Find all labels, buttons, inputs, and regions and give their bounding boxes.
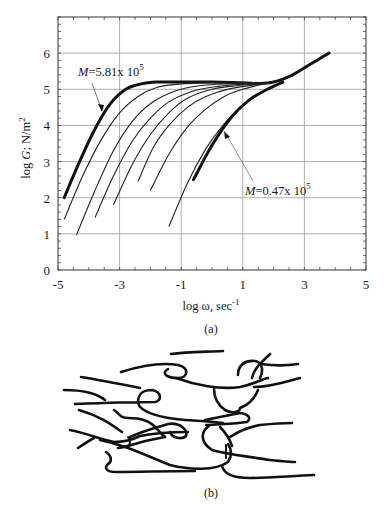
y-tick-label: 3 xyxy=(44,155,51,170)
data-series xyxy=(64,53,329,235)
x-axis-label: log ω, sec-1 xyxy=(182,297,239,313)
y-tick-label: 6 xyxy=(44,46,51,61)
entanglement-diagram-panel-b: (b) xyxy=(64,351,314,500)
series-line xyxy=(77,83,268,235)
series-line xyxy=(169,83,280,227)
panel-b-caption: (b) xyxy=(204,486,218,500)
x-tick-labels: -5-3-1135 xyxy=(53,277,370,292)
chain-strand xyxy=(100,440,231,469)
y-tick-label: 0 xyxy=(44,263,51,278)
figure: -5-3-1135 0123456 M=5.81x 105 M=0.47x 10… xyxy=(0,0,384,512)
chain-strand xyxy=(203,425,295,462)
series-line xyxy=(64,83,267,220)
chain-strand xyxy=(261,364,298,366)
y-tick-label: 4 xyxy=(44,118,51,133)
arrowhead-icon xyxy=(98,104,104,112)
x-tick-label: -1 xyxy=(176,277,187,292)
y-tick-label: 2 xyxy=(44,191,51,206)
chain-strand xyxy=(205,413,249,425)
annotation-high-m: M=5.81x 105 xyxy=(77,62,144,79)
annotation-low-m: M=0.47x 105 xyxy=(244,181,311,198)
chain-strand xyxy=(238,361,262,378)
chain-strand xyxy=(222,466,314,478)
chain-strand xyxy=(81,377,140,388)
y-tick-label: 5 xyxy=(44,82,51,97)
series-line xyxy=(194,82,283,180)
chain-strand xyxy=(64,390,105,400)
x-tick-label: 5 xyxy=(363,277,370,292)
chain-strand xyxy=(79,410,122,432)
arrowhead-icon xyxy=(224,131,230,139)
chain-strand xyxy=(214,389,258,412)
chain-strand xyxy=(106,452,195,472)
y-tick-labels: 0123456 xyxy=(44,46,51,278)
chain-strand xyxy=(121,364,186,378)
panel-a-caption: (a) xyxy=(204,322,217,336)
x-tick-label: 1 xyxy=(240,277,247,292)
chain-strand xyxy=(230,423,292,437)
chain-strand xyxy=(171,351,223,354)
y-tick-label: 1 xyxy=(44,227,51,242)
x-tick-label: 3 xyxy=(301,277,308,292)
chain-strand xyxy=(78,438,94,448)
chart-panel-a: -5-3-1135 0123456 M=5.81x 105 M=0.47x 10… xyxy=(17,17,369,336)
x-tick-label: -5 xyxy=(53,277,64,292)
series-line xyxy=(138,83,267,181)
annotation-arrow-low-m xyxy=(226,134,253,181)
y-axis-label: log G; N/m2 xyxy=(17,117,33,178)
x-tick-label: -3 xyxy=(114,277,125,292)
